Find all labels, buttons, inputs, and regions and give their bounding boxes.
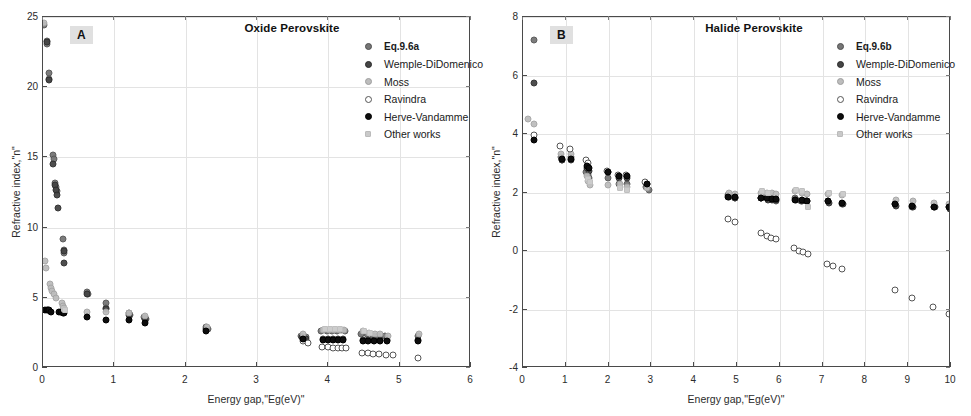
data-point-other <box>617 185 623 191</box>
gridline-horizontal <box>43 228 469 229</box>
data-point-herve <box>340 336 347 343</box>
y-axis-tick-right <box>466 367 470 368</box>
legend-label-herve: Herve-Vandamme <box>856 111 940 123</box>
x-axis-tick-top <box>256 16 257 20</box>
x-axis-title: Energy gap,"Eg(eV)" <box>688 393 785 405</box>
y-axis-tick-label: 0 <box>16 362 38 373</box>
data-point-herve <box>616 173 623 180</box>
legend-item-moss[interactable]: Moss <box>360 73 483 91</box>
legend-label-eq: Eq.9.6a <box>384 41 419 52</box>
data-point-herve <box>203 328 210 335</box>
legend-item-ravindra[interactable]: Ravindra <box>360 91 483 109</box>
data-point-herve <box>383 338 390 345</box>
x-axis-tick-top <box>650 16 651 20</box>
legend-marker-wemple-icon <box>360 61 376 68</box>
x-axis-tick-top <box>470 16 471 20</box>
x-axis-tick-label: 3 <box>648 374 654 385</box>
data-point-herve <box>568 155 575 162</box>
data-point-moss <box>126 310 133 317</box>
gridline-vertical <box>257 17 258 366</box>
data-point-herve <box>126 317 133 324</box>
y-axis-tick <box>42 367 47 368</box>
y-axis-tick <box>42 156 47 157</box>
marker-glyph-eq <box>365 43 372 50</box>
legend-item-ravindra[interactable]: Ravindra <box>832 91 955 109</box>
x-axis-tick-top <box>779 16 780 20</box>
data-point-ravindra <box>731 218 738 225</box>
panel-title-b: Halide Perovskite <box>705 22 803 34</box>
legend-item-eq[interactable]: Eq.9.6b <box>832 38 955 56</box>
legend-item-wemple[interactable]: Wemple-DiDomenico <box>360 56 483 74</box>
legend-marker-herve-icon <box>360 113 376 120</box>
legend-label-moss: Moss <box>856 76 881 88</box>
data-point-wemple <box>53 192 60 199</box>
marker-glyph-herve <box>837 113 844 120</box>
panel-title-a: Oxide Perovskite <box>245 22 340 34</box>
legend-item-moss[interactable]: Moss <box>832 73 955 91</box>
y-axis-tick-label: 0 <box>496 245 518 256</box>
x-axis-tick-label: 5 <box>733 374 739 385</box>
data-point-other <box>840 191 846 197</box>
data-point-ravindra <box>804 250 811 257</box>
data-point-other <box>805 204 811 210</box>
x-axis-tick-label: 2 <box>605 374 611 385</box>
panel-letter-b: B <box>550 26 573 44</box>
x-axis-tick-label: 4 <box>690 374 696 385</box>
legend-item-other[interactable]: Other works <box>832 126 955 144</box>
data-point-wemple <box>46 77 53 84</box>
x-axis-tick <box>950 362 951 367</box>
data-point-ravindra <box>909 294 916 301</box>
x-axis-tick-top <box>399 16 400 20</box>
x-axis-tick-top <box>864 16 865 20</box>
y-axis-tick <box>522 367 527 368</box>
y-axis-tick <box>522 309 527 310</box>
data-point-ravindra <box>838 265 845 272</box>
legend-item-wemple[interactable]: Wemple-DiDomenico <box>832 56 955 74</box>
data-point-wemple <box>61 259 68 266</box>
y-axis-tick-label: 20 <box>16 81 38 92</box>
x-axis-title: Energy gap,"Eg(eV)" <box>208 393 305 405</box>
x-axis-tick-label: 7 <box>819 374 825 385</box>
gridline-vertical <box>114 17 115 366</box>
y-axis-tick-label: 25 <box>16 11 38 22</box>
data-point-ravindra <box>415 355 422 362</box>
legend-item-herve[interactable]: Herve-Vandamme <box>360 108 483 126</box>
data-point-other <box>793 187 799 193</box>
data-point-other <box>337 326 343 332</box>
legend-marker-moss-icon <box>832 78 848 85</box>
data-point-other <box>367 330 373 336</box>
data-point-wemple <box>84 290 91 297</box>
y-axis-tick <box>42 227 47 228</box>
legend-label-moss: Moss <box>384 76 409 88</box>
marker-glyph-eq <box>837 43 844 50</box>
x-axis-tick <box>185 362 186 367</box>
legend-item-eq[interactable]: Eq.9.6a <box>360 38 483 56</box>
data-point-herve <box>892 201 899 208</box>
data-point-herve <box>909 202 916 209</box>
data-point-herve <box>624 173 631 180</box>
marker-glyph-herve <box>365 113 372 120</box>
data-point-herve <box>142 320 149 327</box>
data-point-herve <box>945 204 949 211</box>
legend-item-herve[interactable]: Herve-Vandamme <box>832 108 955 126</box>
data-point-ravindra <box>930 303 937 310</box>
x-axis-tick <box>864 362 865 367</box>
data-point-herve <box>838 199 845 206</box>
panel-b-halide-perovskite: 012345678910-4-202468Energy gap,"Eg(eV)"… <box>486 0 971 416</box>
data-point-herve <box>558 155 565 162</box>
x-axis-tick <box>470 362 471 367</box>
legend-item-other[interactable]: Other works <box>360 126 483 144</box>
marker-glyph-moss <box>365 78 372 85</box>
x-axis-tick-top <box>693 16 694 20</box>
y-axis-tick-label: 4 <box>496 128 518 139</box>
data-point-wemple <box>530 79 537 86</box>
panel-a-oxide-perovskite: 01234560510152025Energy gap,"Eg(eV)"Refr… <box>0 0 486 416</box>
data-point-other <box>62 307 68 313</box>
data-point-herve <box>772 195 779 202</box>
gridline-vertical <box>609 17 610 366</box>
legend-marker-other-icon <box>360 131 376 137</box>
x-axis-tick-top <box>113 16 114 20</box>
x-axis-tick-label: 9 <box>904 374 910 385</box>
y-axis-tick <box>42 16 47 17</box>
y-axis-tick <box>522 16 527 17</box>
